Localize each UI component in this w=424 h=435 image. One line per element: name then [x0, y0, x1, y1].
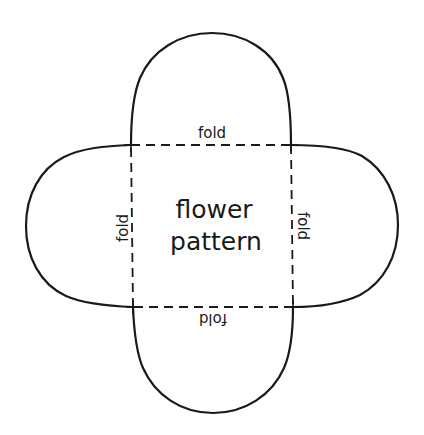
- fold-line-right: [291, 145, 293, 307]
- fold-label-right: fold: [294, 212, 312, 240]
- fold-lines: [131, 145, 293, 307]
- fold-label-bottom: fold: [199, 310, 227, 328]
- fold-label-top: fold: [198, 124, 226, 142]
- corner-ticks: [124, 138, 300, 314]
- flower-pattern-diagram: fold fold fold fold flower pattern: [0, 0, 424, 435]
- pattern-title-line2: pattern: [170, 227, 262, 256]
- fold-label-left: fold: [114, 214, 132, 242]
- pattern-title-line1: flower: [175, 195, 253, 224]
